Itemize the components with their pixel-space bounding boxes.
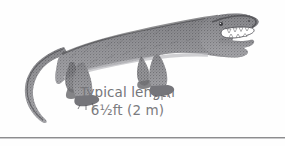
archosaur-reptile-illustration <box>0 0 285 146</box>
nostril <box>248 20 250 22</box>
bottom-rule-shadow <box>0 138 285 139</box>
front-leg-near <box>149 54 174 100</box>
illustrated-fact-panel: Typical length 6½ft (2 m) <box>0 0 285 146</box>
head-shape <box>200 14 257 57</box>
eye <box>219 22 223 26</box>
reptile-body-group <box>25 14 259 123</box>
